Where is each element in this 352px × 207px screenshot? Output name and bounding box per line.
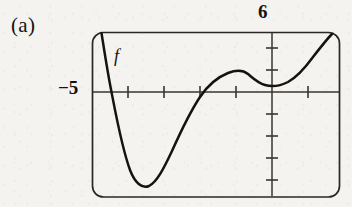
x-axis-min-label: −5	[58, 78, 78, 97]
x-axis-max-label: 6	[258, 2, 268, 21]
viewing-window-frame	[93, 33, 340, 198]
graph-canvas	[0, 0, 352, 207]
function-curve-f	[102, 33, 333, 187]
figure-panel-a: (a) 6 −5 f	[0, 0, 352, 207]
panel-label: (a)	[11, 15, 35, 36]
function-label-f: f	[114, 47, 119, 65]
